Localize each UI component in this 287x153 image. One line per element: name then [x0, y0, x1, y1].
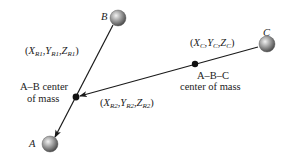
r2-coordinate-label: (XR2,YR2,ZR2): [100, 97, 154, 112]
atom-c-sphere: [259, 36, 275, 52]
atom-a-sphere: [42, 136, 58, 152]
abc-center-of-mass-label-line1: A–B–C: [197, 70, 229, 81]
ab-center-of-mass-label-line2: of mass: [27, 93, 59, 104]
atom-c-label: C: [263, 27, 270, 38]
c-coordinate-label: (XC,YC,ZC): [190, 37, 234, 52]
ab-center-of-mass-dot: [73, 94, 80, 101]
abc-center-of-mass-dot: [192, 61, 198, 67]
diagram-canvas: [0, 0, 287, 153]
abc-center-of-mass-label-line2: center of mass: [180, 81, 241, 92]
atom-a-label: A: [29, 138, 35, 149]
atom-b-label: B: [101, 11, 107, 22]
r1-coordinate-label: (XR1,YR1,ZR1): [25, 45, 79, 60]
ab-center-of-mass-label-line1: A–B center: [20, 81, 68, 92]
atom-b-sphere: [110, 10, 126, 26]
